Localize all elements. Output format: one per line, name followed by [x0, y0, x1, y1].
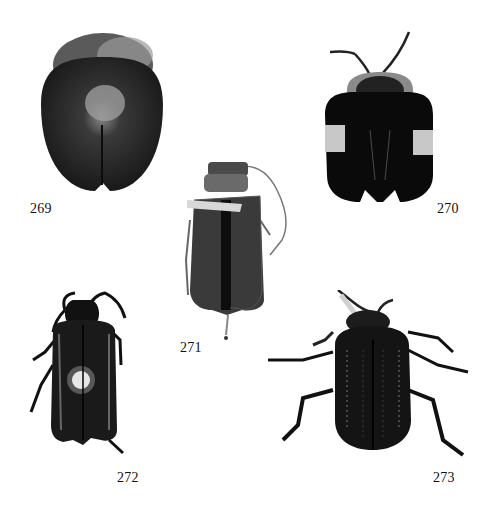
figure-plate: 269 270 271	[0, 0, 492, 505]
beetle-269-image	[35, 25, 170, 195]
figure-label-270: 270	[437, 201, 459, 217]
figure-label-272: 272	[117, 470, 139, 486]
specimen-270	[325, 30, 435, 205]
beetle-272-image	[25, 290, 135, 460]
specimen-272	[25, 290, 135, 460]
beetle-270-image	[325, 30, 435, 205]
specimen-269	[35, 25, 170, 195]
figure-label-269: 269	[30, 201, 52, 217]
figure-label-271: 271	[180, 340, 202, 356]
specimen-273	[263, 290, 478, 460]
beetle-273-image	[263, 290, 478, 460]
figure-label-273: 273	[433, 470, 455, 486]
